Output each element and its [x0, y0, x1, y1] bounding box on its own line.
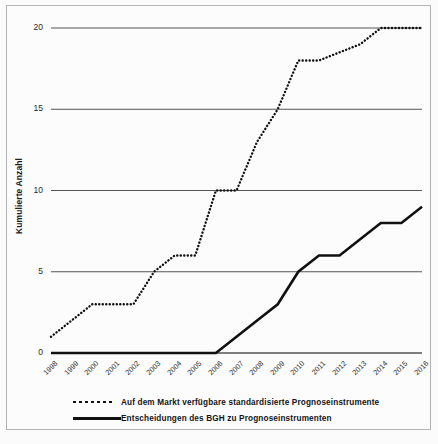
- series-line: [51, 207, 422, 353]
- chart-figure: Kumulierte Anzahl 05101520 1998199920002…: [0, 0, 438, 444]
- legend-item-dotted: Auf dem Markt verfügbare standardisierte…: [7, 394, 432, 410]
- legend-label-dotted: Auf dem Markt verfügbare standardisierte…: [121, 398, 379, 407]
- legend-item-solid: Entscheidungen des BGH zu Prognoseinstru…: [7, 410, 432, 426]
- chart-plot-svg: [7, 6, 432, 431]
- chart-frame: Kumulierte Anzahl 05101520 1998199920002…: [6, 5, 431, 430]
- legend-label-solid: Entscheidungen des BGH zu Prognoseinstru…: [121, 414, 332, 423]
- chart-legend: Auf dem Markt verfügbare standardisierte…: [7, 394, 432, 426]
- series-line: [51, 28, 422, 337]
- dotted-line-marker-icon: [69, 397, 121, 407]
- solid-line-marker-icon: [69, 413, 121, 423]
